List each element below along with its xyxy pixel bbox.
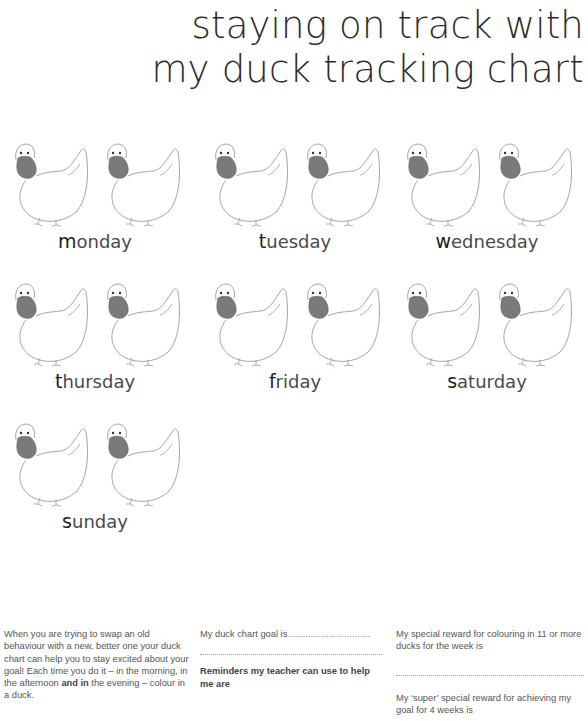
duck-icon[interactable]	[98, 278, 190, 368]
day-label: monday	[0, 230, 190, 252]
day-friday: friday	[200, 278, 390, 408]
reminders-label: Reminders my teacher can use to help me …	[200, 665, 382, 690]
duck-icon[interactable]	[98, 418, 190, 508]
duck-icon[interactable]	[398, 278, 490, 368]
duck-icon[interactable]	[6, 278, 98, 368]
duck-icon[interactable]	[298, 278, 390, 368]
title-line-2: my duck tracking chart	[151, 48, 584, 92]
day-label: wednesday	[392, 230, 582, 252]
duck-icon[interactable]	[298, 138, 390, 228]
day-label: saturday	[392, 370, 582, 392]
duck-icon[interactable]	[98, 138, 190, 228]
day-monday: monday	[0, 138, 190, 268]
duck-icon[interactable]	[490, 278, 582, 368]
goal-dots: ................................	[287, 629, 370, 639]
duck-icon[interactable]	[6, 138, 98, 228]
goal-label: My duck chart goal is	[200, 629, 287, 639]
duck-icon[interactable]	[206, 138, 298, 228]
day-wednesday: wednesday	[392, 138, 582, 268]
day-sunday: sunday	[0, 418, 190, 548]
day-saturday: saturday	[392, 278, 582, 408]
super-reward-label: My ‘super’ special reward for achieving …	[396, 692, 584, 717]
intro-text: When you are trying to swap an old behav…	[4, 628, 192, 702]
goal-column: My duck chart goal is...................…	[200, 628, 382, 690]
day-thursday: thursday	[0, 278, 190, 408]
duck-icon[interactable]	[398, 138, 490, 228]
duck-icon[interactable]	[490, 138, 582, 228]
duck-icon[interactable]	[6, 418, 98, 508]
reward-label: My special reward for colouring in 11 or…	[396, 628, 584, 653]
day-label: thursday	[0, 370, 190, 392]
day-tuesday: tuesday	[200, 138, 390, 268]
reward-column: My special reward for colouring in 11 or…	[396, 628, 584, 716]
duck-icon[interactable]	[206, 278, 298, 368]
day-label: friday	[200, 370, 390, 392]
day-label: sunday	[0, 510, 190, 532]
page-title: staying on track with my duck tracking c…	[151, 4, 584, 92]
day-label: tuesday	[200, 230, 390, 252]
title-line-1: staying on track with	[151, 4, 584, 48]
